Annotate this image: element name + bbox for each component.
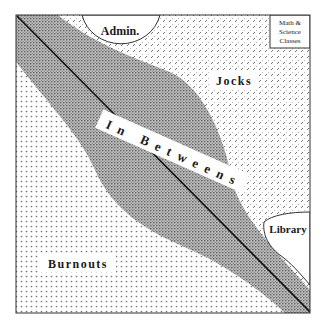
svg-text:Classes: Classes [280,37,301,45]
library-label: Library [269,223,307,235]
svg-text:Science: Science [279,28,301,36]
burnouts-label: Burnouts [48,257,108,271]
admin-label: Admin. [101,24,139,38]
social-map-diagram: Admin. Math & Science Classes Jocks I n … [0,0,325,328]
svg-text:Math &: Math & [279,19,302,27]
math-science-label: Math & Science Classes [279,19,302,45]
jocks-label: Jocks [216,74,252,88]
